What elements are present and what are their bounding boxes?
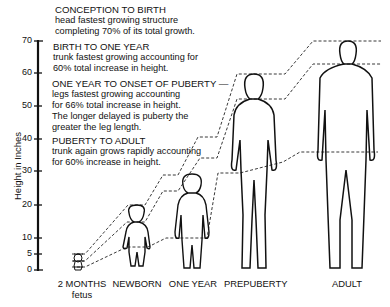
newborn-figure bbox=[123, 205, 150, 266]
stage-label: 2 MONTHS bbox=[57, 278, 107, 289]
stage-label-prepuberty: PREPUBERTY bbox=[224, 278, 286, 289]
stage-sublabel: fetus bbox=[57, 289, 107, 300]
stage-label-fetus: 2 MONTHS fetus bbox=[57, 278, 107, 300]
stage-label-newborn: NEWBORN bbox=[112, 278, 162, 289]
growth-diagram bbox=[0, 0, 390, 307]
stage-label-one-year: ONE YEAR bbox=[168, 278, 218, 289]
stage-label-adult: ADULT bbox=[322, 278, 372, 289]
adult-figure bbox=[318, 41, 375, 268]
dashed-guides bbox=[72, 41, 381, 267]
prepuberty-figure bbox=[232, 74, 277, 268]
fetus-figure bbox=[73, 254, 84, 270]
